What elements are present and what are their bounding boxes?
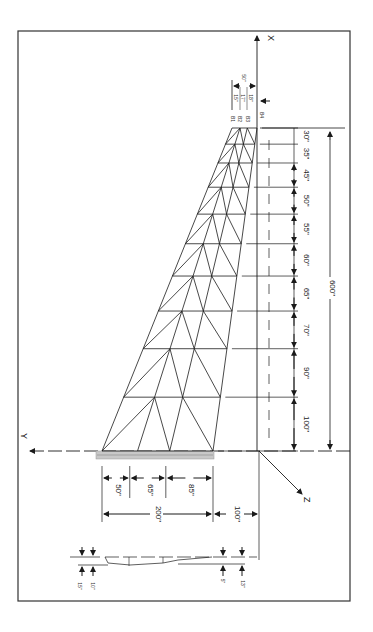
x-axis-label: X xyxy=(266,35,276,41)
span-segment-label: 90" xyxy=(302,367,311,379)
span-segment-label: 65" xyxy=(302,288,311,300)
root-chord-total-label: 200" xyxy=(154,506,163,522)
root-thickness-upper-label: 15" xyxy=(77,582,83,590)
span-segment-label: 30" xyxy=(302,130,311,142)
truss-structure xyxy=(102,128,257,451)
root-chord-dimensions: 50"65"85"200"100" xyxy=(102,451,259,560)
tip-spacing-label: 17" xyxy=(240,94,246,102)
root-chord-segment-label: 85" xyxy=(187,484,196,496)
tip-chord-label: 50" xyxy=(241,74,247,82)
truss-drawing: X Y Z 30"35"45"50"55"60"65"70"90"100" 60… xyxy=(0,0,373,632)
tip-spacing-label: 18" xyxy=(248,94,254,102)
span-segment-label: 45" xyxy=(302,169,311,181)
tip-thickness-lower-label: 13" xyxy=(240,580,246,588)
span-dimensions: 30"35"45"50"55"60"65"70"90"100" xyxy=(218,128,311,451)
z-axis: Z xyxy=(259,451,312,503)
root-offset-label: 100" xyxy=(233,506,242,522)
node-label: B2 xyxy=(237,116,243,122)
root-chord-segment-label: 50" xyxy=(114,484,123,496)
node-label: B1 xyxy=(230,116,236,122)
span-segment-label: 55" xyxy=(302,223,311,235)
span-segment-label: 70" xyxy=(302,324,311,336)
span-segment-label: 35" xyxy=(302,148,311,160)
y-axis-label: Y xyxy=(19,433,29,439)
z-axis-label: Z xyxy=(302,497,312,503)
tip-detail: 50" 15" 17" 18" B1 B2 B3 B4 xyxy=(230,74,270,122)
span-segment-label: 100" xyxy=(302,416,311,432)
y-axis: Y xyxy=(19,433,350,451)
drawing-frame xyxy=(18,31,350,601)
tip-spacing-label: 15" xyxy=(233,94,239,102)
span-total-label: 600" xyxy=(328,280,337,296)
x-axis: X xyxy=(257,35,276,451)
span-segment-label: 60" xyxy=(302,254,311,266)
node-label: B4 xyxy=(259,112,265,118)
thickness-profile: 15" 10" 5" 13" xyxy=(70,547,257,590)
root-chord-segment-label: 65" xyxy=(146,484,155,496)
tip-thickness-upper-label: 5" xyxy=(220,579,226,584)
span-segment-label: 50" xyxy=(302,195,311,207)
root-thickness-lower-label: 10" xyxy=(90,582,96,590)
node-label: B3 xyxy=(245,116,251,122)
